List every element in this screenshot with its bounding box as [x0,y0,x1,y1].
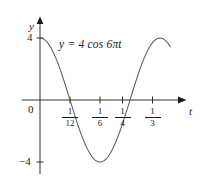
y-axis [37,17,44,175]
fraction-denominator: 4 [115,119,131,129]
t-axis-label: t [189,106,192,117]
fraction-numerator: 1 [115,107,131,117]
fraction-denominator: 3 [145,119,161,129]
x-tick-label-1-4: 1 4 [115,107,131,128]
x-tick-label-1-6: 1 6 [92,107,108,128]
y-tick-label-minus-4: −4 [19,156,31,167]
origin-label: 0 [28,104,34,115]
x-tick-label-1-3: 1 3 [145,107,161,128]
fraction-numerator: 1 [145,107,161,117]
fraction-denominator: 6 [92,119,108,129]
t-axis [22,97,187,104]
y-tick-label-4: 4 [27,32,33,43]
fraction-numerator: 1 [62,107,78,117]
x-tick-label-1-12: 1 12 [62,107,78,128]
fraction-numerator: 1 [92,107,108,117]
graph-figure: y t 0 4 −4 y = 4 cos 6πt 1 12 1 6 1 4 1 … [0,0,208,184]
fraction-denominator: 12 [62,119,78,129]
equation-annotation: y = 4 cos 6πt [59,39,122,51]
